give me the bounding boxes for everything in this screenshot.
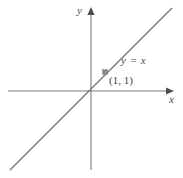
point-coordinate-label: (1, 1)	[109, 75, 133, 86]
axis-label-y: y	[77, 5, 82, 16]
function-graph-figure: y x y = x (1, 1)	[0, 0, 183, 178]
axis-label-x: x	[169, 94, 174, 105]
y-axis-arrowhead-icon	[87, 7, 94, 15]
graph-canvas	[0, 0, 183, 178]
point-marker-1-1	[103, 70, 108, 75]
line-equation-label: y = x	[121, 55, 146, 66]
